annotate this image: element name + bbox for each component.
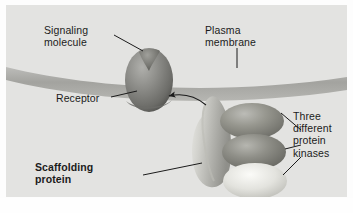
figure-bottom-strip (0, 198, 353, 213)
label-plasma-membrane: Plasma membrane (205, 24, 256, 48)
label-receptor: Receptor (56, 92, 99, 104)
figure-root: Signaling molecule Plasma membrane Recep… (0, 0, 353, 213)
signaling-molecule-leader (114, 35, 143, 51)
scaffolding-protein (192, 96, 231, 187)
protein-kinase-top (220, 103, 284, 139)
receptor (125, 48, 173, 112)
protein-kinase-bottom (223, 163, 287, 197)
kinase-leader-bottom (283, 157, 301, 175)
label-signaling-molecule: Signaling molecule (44, 24, 88, 48)
label-protein-kinases: Three different protein kinases (293, 110, 332, 159)
label-scaffolding-protein: Scaffolding protein (35, 161, 93, 185)
scaffolding-protein-leader (143, 163, 202, 175)
